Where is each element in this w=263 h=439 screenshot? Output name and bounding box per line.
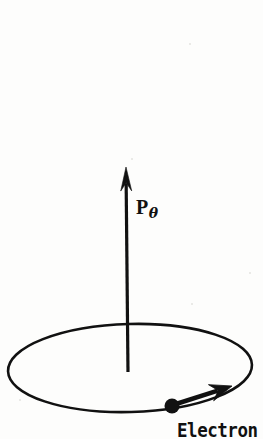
momentum-vector-group [121,167,132,372]
paper-speck [131,158,133,160]
paper-speck [249,272,251,274]
electron-dot-group [165,399,180,414]
figure-container: Pθ Electron [0,0,263,439]
momentum-subscript: θ [149,205,158,221]
momentum-vector-label: Pθ [136,197,158,220]
figure-canvas [0,0,263,439]
paper-speck [191,303,193,305]
paper-speck [189,43,191,45]
momentum-symbol: P [136,196,148,218]
paper-speck [19,399,21,401]
momentum-vector-shaft [126,183,128,372]
electron-dot [165,399,180,414]
orbit-ellipse-group [7,321,253,415]
electron-label: Electron [177,421,258,439]
orbit-ellipse [7,321,253,415]
velocity-vector-shaft [176,391,218,404]
